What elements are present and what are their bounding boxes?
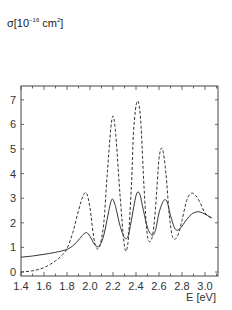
x-tick-label: 1.4 — [13, 280, 28, 292]
x-axis-label: E [eV] — [186, 291, 216, 303]
y-tick-label: 4 — [10, 168, 16, 180]
y-tick-label: 6 — [10, 118, 16, 130]
y-tick-label: 2 — [10, 217, 16, 229]
dashed-curve — [21, 101, 211, 272]
x-tick-label: 1.8 — [59, 280, 74, 292]
data-series — [21, 101, 212, 272]
y-tick-label: 3 — [10, 192, 16, 204]
y-tick-label: 7 — [10, 94, 16, 106]
y-tick-label: 1 — [10, 241, 16, 253]
y-tick-label: 0 — [10, 266, 16, 278]
x-tick-label: 2.2 — [105, 280, 120, 292]
x-tick-label: 2.0 — [82, 280, 97, 292]
x-tick-label: 2.4 — [128, 280, 143, 292]
axis-ticks: 1.41.61.82.02.22.42.62.83.001234567 — [10, 86, 218, 292]
solid-curve — [21, 192, 212, 257]
y-tick-label: 5 — [10, 143, 16, 155]
x-tick-label: 1.6 — [36, 280, 51, 292]
cross-section-chart: 1.41.61.82.02.22.42.62.83.001234567 E [e… — [0, 0, 232, 310]
x-tick-label: 2.6 — [151, 280, 166, 292]
